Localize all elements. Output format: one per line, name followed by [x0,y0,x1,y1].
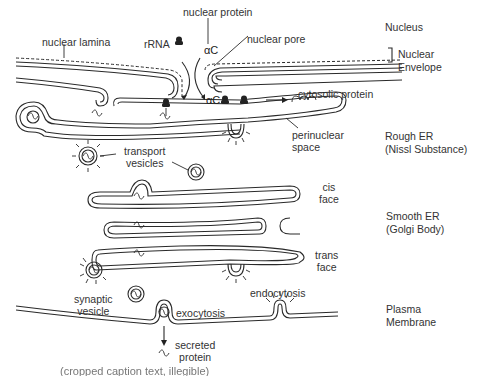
label-transport-vesicles: transport vesicles [124,145,165,169]
region-nuclear-envelope: Nuclear Envelope [398,48,442,74]
svg-text:αC: αC [204,44,218,56]
nuclear-protein-icon: αC [206,94,220,106]
label-cytosolic-protein: cytosolic protein [298,88,373,100]
label-perinuclear-space: perinuclear space [292,129,344,153]
label-synaptic-vesicle: synaptic vesicle [74,293,113,317]
region-nucleus: Nucleus [385,21,423,34]
region-rough-er: Rough ER (Nissl Substance) [385,130,467,156]
cell-trafficking-diagram: αC αC nuclear protein nuclear lamina rRN… [0,0,482,376]
cropped-caption: (cropped caption text, illegible) [60,366,380,376]
label-endocytosis: endocytosis [250,287,305,299]
nuclear-protein-icon: αC [204,18,218,56]
label-nuclear-protein: nuclear protein [183,6,252,18]
coated-bud-golgi-right [222,264,250,283]
label-rrna: rRNA [144,38,170,50]
svg-text:αC: αC [206,94,220,106]
label-nuclear-lamina: nuclear lamina [42,36,110,48]
label-trans-face: trans face [315,249,338,273]
golgi-stack [88,180,304,270]
rrna-ribosome-icon [175,37,183,46]
label-cis-face: cis face [319,181,339,205]
label-secreted-protein: secreted protein [175,339,215,363]
nuclear-pore-traffic [181,58,288,103]
label-nuclear-pore: nuclear pore [247,33,305,45]
label-exocytosis: exocytosis [176,307,225,319]
region-smooth-er: Smooth ER (Golgi Body) [386,210,444,236]
coated-bud-golgi-left [80,258,106,284]
region-plasma-membrane: Plasma Membrane [386,303,436,329]
